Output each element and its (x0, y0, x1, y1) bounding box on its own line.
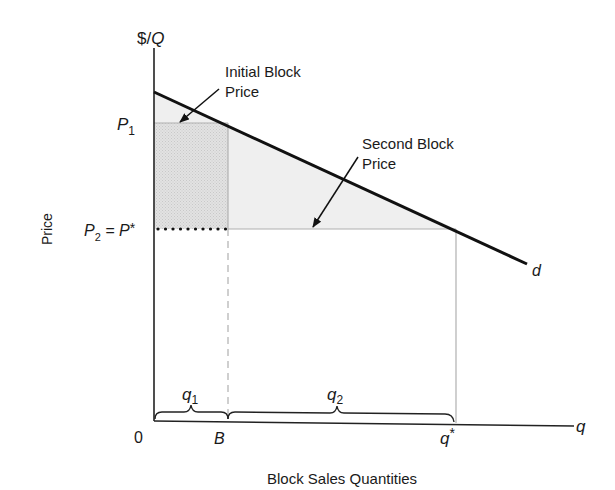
q1-brace (155, 405, 228, 419)
qstar-label: q* (440, 425, 455, 448)
initial-block-region (155, 123, 228, 229)
p2-label: P2 = P* (84, 220, 136, 243)
q2-brace (228, 406, 454, 422)
demand-label: d (532, 262, 542, 279)
p1-label: P1 (117, 115, 135, 138)
second-block-label-line2: Price (362, 155, 396, 172)
initial-block-label-line2: Price (225, 83, 259, 100)
x-axis-label: q (576, 417, 586, 436)
initial-block-label-line1: Initial Block (225, 63, 301, 80)
y-axis-label: $/Q (137, 29, 164, 48)
q2-label: q2 (327, 385, 343, 407)
block-pricing-diagram: $/Q P1 P2 = P* Price Initial Block Price… (0, 0, 615, 490)
bottom-axis-title: Block Sales Quantities (267, 470, 417, 487)
q1-label: q1 (182, 385, 198, 407)
b-label: B (214, 430, 225, 447)
second-block-label-line1: Second Block (362, 135, 454, 152)
side-price-label: Price (39, 213, 55, 245)
origin-label: 0 (134, 429, 143, 446)
x-axis (154, 421, 574, 426)
